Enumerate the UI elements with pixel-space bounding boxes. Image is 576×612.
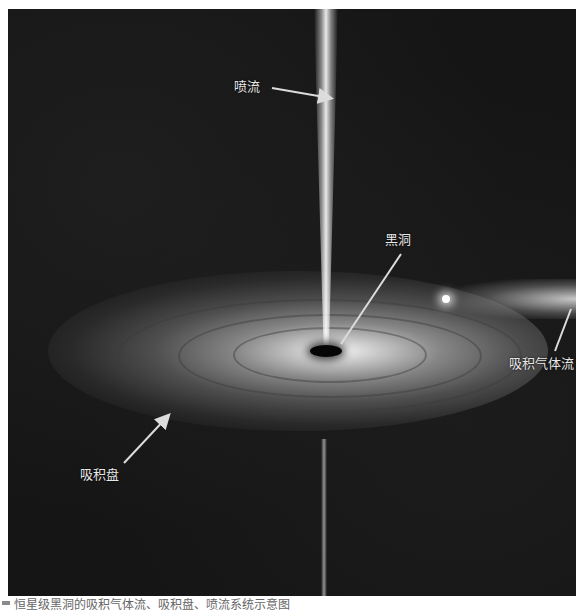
jet-arrow xyxy=(272,88,330,98)
label-accretion-stream: 吸积气体流 xyxy=(509,356,574,372)
black-hole-pointer xyxy=(341,254,401,344)
disk-arrow xyxy=(124,416,168,463)
label-jet: 喷流 xyxy=(234,79,260,95)
black-hole-illustration: 喷流 黑洞 吸积气体流 吸积盘 xyxy=(8,9,576,596)
label-accretion-disk: 吸积盘 xyxy=(80,467,119,483)
annotation-arrows xyxy=(8,9,576,596)
label-black-hole: 黑洞 xyxy=(385,232,411,248)
stream-pointer xyxy=(555,309,571,351)
caption-marker xyxy=(2,601,10,605)
caption-text: 恒星级黑洞的吸积气体流、吸积盘、喷流系统示意图 xyxy=(14,595,290,612)
figure-caption: 恒星级黑洞的吸积气体流、吸积盘、喷流系统示意图 xyxy=(0,597,576,611)
